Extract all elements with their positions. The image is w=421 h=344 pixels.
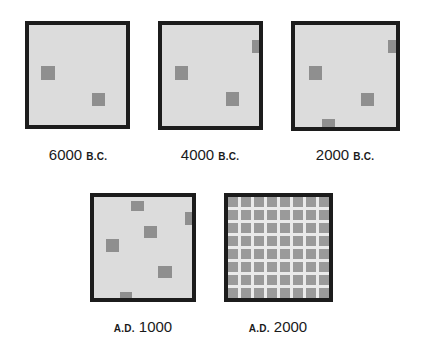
panel-2000bc — [291, 21, 400, 131]
grid-cell — [254, 223, 264, 233]
settlement-square — [131, 201, 144, 211]
grid-cell — [267, 249, 277, 259]
grid-cell — [280, 288, 290, 298]
grid-cell — [241, 210, 251, 220]
grid-cell — [267, 210, 277, 220]
panel-ad2000 — [224, 193, 333, 302]
year-text: 2000 — [316, 146, 349, 163]
grid-cell — [306, 236, 316, 246]
grid-cell — [293, 288, 303, 298]
grid-cell — [254, 236, 264, 246]
era-text: B.C. — [218, 151, 239, 162]
settlement-square — [158, 266, 172, 278]
settlement-square — [226, 92, 239, 106]
year-text: 2000 — [274, 318, 307, 335]
grid-cell — [267, 223, 277, 233]
year-text: 4000 — [181, 146, 214, 163]
grid-cell — [228, 210, 238, 220]
grid-cell — [306, 275, 316, 285]
grid-cell — [319, 210, 329, 220]
grid-cell — [254, 262, 264, 272]
panel-6000bc — [25, 21, 130, 129]
grid-cell — [306, 288, 316, 298]
grid-cell — [241, 288, 251, 298]
settlement-square — [309, 66, 322, 80]
grid-cell — [306, 262, 316, 272]
grid-cell — [319, 197, 329, 207]
grid-cell — [228, 236, 238, 246]
era-text: A.D. — [249, 323, 270, 334]
grid-cell — [228, 275, 238, 285]
grid-cell — [228, 288, 238, 298]
settlement-square — [185, 212, 196, 225]
grid-cell — [267, 275, 277, 285]
year-text: 6000 — [49, 146, 82, 163]
grid-cell — [241, 275, 251, 285]
grid-cell — [254, 249, 264, 259]
grid-cell — [306, 197, 316, 207]
settlement-square — [388, 40, 400, 53]
grid-cell — [293, 223, 303, 233]
grid-cell — [319, 249, 329, 259]
grid-cell — [293, 249, 303, 259]
grid-cell — [293, 236, 303, 246]
grid-cell — [241, 236, 251, 246]
grid-cell — [293, 210, 303, 220]
era-text: A.D. — [114, 323, 135, 334]
settlement-square — [120, 292, 132, 302]
grid-cell — [319, 262, 329, 272]
grid-cell — [306, 210, 316, 220]
grid-cell — [228, 249, 238, 259]
grid-cell — [319, 223, 329, 233]
grid-cell — [241, 249, 251, 259]
grid-cell — [280, 210, 290, 220]
grid-cell — [293, 275, 303, 285]
settlement-square — [41, 66, 55, 80]
grid-cell — [293, 262, 303, 272]
grid-cell — [280, 236, 290, 246]
grid-cell — [267, 197, 277, 207]
panel-label-4000bc: 4000 B.C. — [160, 146, 260, 163]
settlement-square — [144, 226, 157, 238]
settlement-square — [252, 40, 263, 53]
grid-cell — [228, 223, 238, 233]
grid-cell — [254, 288, 264, 298]
grid-cell — [241, 197, 251, 207]
grid-cell — [280, 249, 290, 259]
grid-cell — [306, 249, 316, 259]
grid-cell — [319, 275, 329, 285]
grid-cell — [228, 197, 238, 207]
grid-cell — [254, 210, 264, 220]
grid-cell — [280, 197, 290, 207]
grid-cell — [293, 197, 303, 207]
settlement-square — [106, 239, 119, 252]
grid-cell — [254, 275, 264, 285]
panel-label-ad2000: A.D. 2000 — [228, 318, 328, 335]
panel-label-ad1000: A.D. 1000 — [93, 318, 193, 335]
grid-cell — [280, 223, 290, 233]
grid-cell — [241, 223, 251, 233]
panel-4000bc — [158, 21, 263, 130]
settlement-grid — [228, 197, 329, 298]
grid-cell — [254, 197, 264, 207]
grid-cell — [241, 262, 251, 272]
grid-cell — [319, 288, 329, 298]
panel-label-2000bc: 2000 B.C. — [295, 146, 395, 163]
era-text: B.C. — [353, 151, 374, 162]
grid-cell — [267, 236, 277, 246]
grid-cell — [267, 262, 277, 272]
grid-cell — [280, 262, 290, 272]
settlement-square — [175, 66, 188, 80]
era-text: B.C. — [86, 151, 107, 162]
grid-cell — [267, 288, 277, 298]
grid-cell — [319, 236, 329, 246]
settlement-square — [361, 93, 374, 106]
year-text: 1000 — [139, 318, 172, 335]
settlement-square — [322, 119, 335, 131]
panel-label-6000bc: 6000 B.C. — [28, 146, 128, 163]
grid-cell — [280, 275, 290, 285]
settlement-square — [92, 93, 105, 106]
grid-cell — [228, 262, 238, 272]
grid-cell — [306, 223, 316, 233]
panel-ad1000 — [90, 193, 196, 302]
